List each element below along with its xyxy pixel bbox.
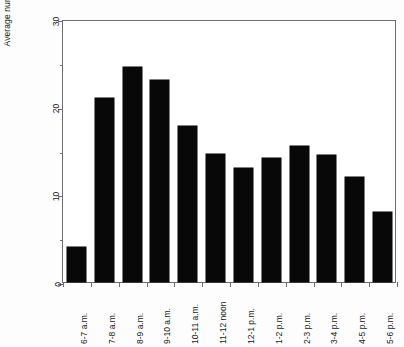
bar bbox=[262, 158, 281, 282]
x-axis-tick bbox=[91, 282, 92, 287]
x-axis-tick bbox=[147, 282, 148, 287]
x-axis-tick-label: 5-6 p.m. bbox=[386, 313, 395, 344]
plot-area: 0102030 bbox=[62, 20, 396, 283]
y-axis-minor-tick bbox=[60, 240, 64, 241]
x-axis-tick bbox=[314, 282, 315, 287]
bar bbox=[206, 154, 225, 282]
x-axis-tick-label: 11-12 noon bbox=[219, 302, 228, 344]
x-axis-tick bbox=[341, 282, 342, 287]
y-axis-tick-label: 10 bbox=[52, 192, 61, 201]
bar bbox=[345, 177, 364, 282]
x-axis-labels: 6-7 a.m.7-8 a.m.8-9 a.m.9-10 a.m.10-11 a… bbox=[62, 288, 396, 346]
x-axis-tick bbox=[397, 282, 398, 287]
y-axis-minor-tick bbox=[60, 153, 64, 154]
bar-series bbox=[63, 21, 395, 282]
bar bbox=[290, 146, 309, 282]
x-axis-tick-label: 10-11 a.m. bbox=[191, 304, 200, 344]
x-axis-tick-label: 7-8 a.m. bbox=[108, 313, 117, 344]
x-axis-tick bbox=[230, 282, 231, 287]
x-axis-tick-label: 9-10 a.m. bbox=[163, 308, 172, 344]
x-axis-tick bbox=[119, 282, 120, 287]
bar bbox=[123, 67, 142, 282]
x-axis-tick-label: 4-5 p.m. bbox=[358, 313, 367, 344]
bar bbox=[150, 80, 169, 282]
x-axis-tick-label: 2-3 p.m. bbox=[303, 313, 312, 344]
x-axis-tick bbox=[174, 282, 175, 287]
bar bbox=[373, 212, 392, 282]
y-axis-tick-label: 20 bbox=[52, 104, 61, 113]
x-axis-tick bbox=[63, 282, 64, 287]
bar bbox=[95, 98, 114, 282]
x-axis-tick bbox=[369, 282, 370, 287]
y-axis-tick-label: 30 bbox=[52, 16, 61, 25]
bar bbox=[178, 126, 197, 282]
x-axis-tick-label: 1-2 p.m. bbox=[275, 313, 284, 344]
x-axis-tick-label: 8-9 a.m. bbox=[136, 313, 145, 344]
y-axis-minor-tick bbox=[60, 65, 64, 66]
x-axis-tick-label: 3-4 p.m. bbox=[330, 313, 339, 344]
y-axis-tick-label: 0 bbox=[54, 282, 63, 287]
x-axis-tick-label: 12-1 p.m. bbox=[247, 308, 256, 344]
bar bbox=[234, 168, 253, 282]
bar bbox=[67, 247, 86, 282]
chart-page: Average number of patients 0102030 6-7 a… bbox=[0, 0, 404, 347]
x-axis-tick bbox=[286, 282, 287, 287]
y-axis-title: Average number of patients bbox=[0, 0, 14, 88]
x-axis-tick-label: 6-7 a.m. bbox=[80, 313, 89, 344]
x-axis-tick bbox=[202, 282, 203, 287]
bar bbox=[317, 155, 336, 282]
x-axis-tick bbox=[258, 282, 259, 287]
